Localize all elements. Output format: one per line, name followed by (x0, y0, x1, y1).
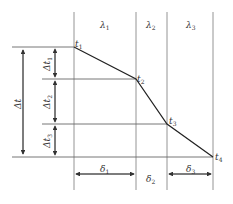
delta-t1-label: Δt1 (42, 57, 53, 72)
t2-label: t2 (137, 74, 145, 85)
layer-2-label: λ2 (145, 20, 156, 31)
delta-2-label: δ2 (146, 174, 155, 185)
layer-3-label: λ3 (185, 20, 196, 31)
t1-label: t1 (75, 39, 82, 50)
delta-t2-label: Δt2 (42, 95, 53, 110)
total-delta-label: Δt (13, 99, 23, 110)
temperature-profile-line (74, 47, 213, 157)
layer-1-label: λ1 (99, 20, 110, 31)
delta-3-label: δ3 (186, 164, 195, 175)
wall-temperature-diagram: λ1 λ2 λ3 t1 t2 t3 t4 Δt Δt1 Δt2 Δt3 δ1 δ… (0, 0, 233, 204)
delta-1-label: δ1 (100, 164, 109, 175)
t3-label: t3 (169, 116, 177, 127)
t4-label: t4 (215, 152, 223, 163)
delta-t3-label: Δt3 (42, 134, 53, 149)
wall-boundaries (74, 12, 213, 190)
